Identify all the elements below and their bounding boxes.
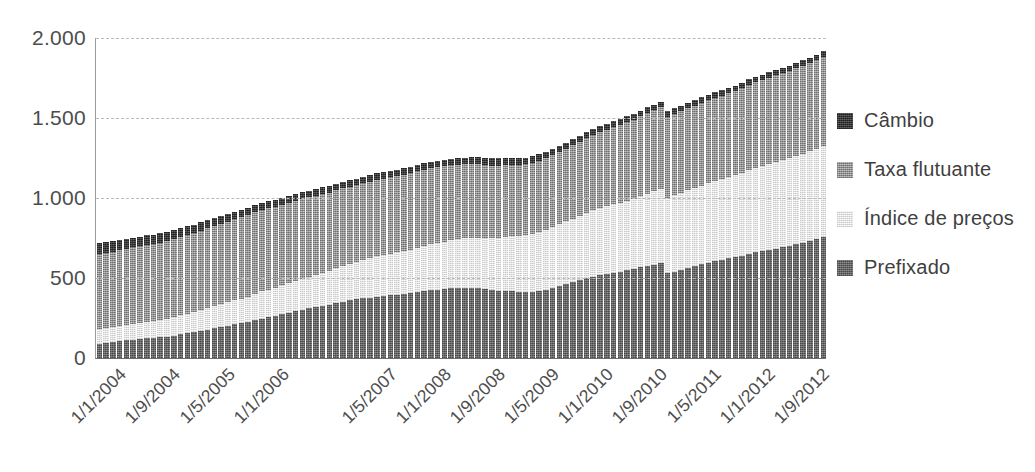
legend-item[interactable]: Índice de preços <box>837 194 1032 243</box>
bar-segment <box>408 293 414 358</box>
bar-segment <box>530 292 536 358</box>
bar-segment <box>516 236 522 292</box>
bar-segment <box>503 291 509 358</box>
bar-segment <box>388 295 394 358</box>
bar-segment <box>245 208 251 215</box>
bar-segment <box>638 267 644 358</box>
legend-item[interactable]: Prefixado <box>837 243 1032 292</box>
bar-segment <box>110 327 116 342</box>
bar-segment <box>482 165 488 238</box>
bar-segment <box>631 269 637 358</box>
bar-segment <box>658 107 664 189</box>
bar-segment <box>753 252 759 358</box>
bar-segment <box>191 225 197 233</box>
bar-segment <box>678 111 684 193</box>
bar-segment <box>550 155 556 227</box>
bar-segment <box>631 199 637 269</box>
bar-segment <box>455 288 461 358</box>
bar-segment <box>286 203 292 283</box>
bar-segment <box>97 344 103 358</box>
bar-segment <box>239 217 245 298</box>
x-axis-tick-label: 1/9/2010 <box>608 364 672 428</box>
bar-segment <box>171 317 177 335</box>
x-axis-tick-label: 1/1/2010 <box>554 364 618 428</box>
y-axis: 05001.0001.5002.000 <box>0 0 86 472</box>
bar-segment <box>618 272 624 358</box>
bar-segment <box>245 297 251 322</box>
bar-segment <box>273 207 279 288</box>
bar-segment <box>171 336 177 358</box>
bar-segment <box>347 180 353 187</box>
bar-segment <box>706 263 712 358</box>
bar-segment <box>185 235 191 314</box>
bar-segment <box>205 220 211 228</box>
legend-item[interactable]: Taxa flutuante <box>837 145 1032 194</box>
bar-segment <box>360 260 366 298</box>
bar-segment <box>300 310 306 358</box>
legend-swatch-icon <box>837 113 853 129</box>
bar-segment <box>516 292 522 358</box>
bar-segment <box>218 216 224 224</box>
bar-segment <box>212 226 218 306</box>
bar-segment <box>191 312 197 332</box>
bar-segment <box>706 100 712 183</box>
bar-segment <box>448 240 454 288</box>
bar-segment <box>496 158 502 165</box>
bar-segment <box>185 226 191 235</box>
bar-segment <box>760 166 766 251</box>
bar-segment <box>665 117 671 198</box>
bar-segment <box>178 334 184 358</box>
bar-segment <box>584 278 590 358</box>
bar-segment <box>814 239 820 358</box>
bar-segment <box>354 185 360 262</box>
bar-segment <box>482 289 488 358</box>
bar-segment <box>245 215 251 297</box>
bar-segment <box>611 273 617 358</box>
bar-segment <box>604 206 610 274</box>
bar-segment <box>306 197 312 276</box>
bar-segment <box>563 149 569 222</box>
bar-segment <box>178 237 184 315</box>
bar-segment <box>198 231 204 310</box>
bar-segment <box>164 337 170 358</box>
bar-segment <box>293 311 299 358</box>
bar-segment <box>793 244 799 358</box>
bar-segment <box>340 266 346 302</box>
bar-segment <box>787 158 793 246</box>
bar-segment <box>313 307 319 358</box>
bar-segment <box>381 296 387 358</box>
bar-segment <box>252 212 258 294</box>
bar-segment <box>793 68 799 156</box>
bar-segment <box>191 233 197 312</box>
chart-legend: CâmbioTaxa flutuanteÍndice de preçosPref… <box>837 96 1032 292</box>
bar-segment <box>157 243 163 320</box>
bar-segment <box>212 218 218 226</box>
legend-label: Câmbio <box>864 109 934 132</box>
bar-segment <box>198 222 204 230</box>
bar-segment <box>618 125 624 203</box>
legend-item[interactable]: Câmbio <box>837 96 1032 145</box>
bar-segment <box>793 156 799 244</box>
bar-segment <box>367 298 373 358</box>
bar-segment <box>503 158 509 165</box>
stacked-bar-chart: 05001.0001.5002.000 1/1/20041/9/20041/5/… <box>0 0 1035 472</box>
bar-segment <box>333 190 339 268</box>
bar-segment <box>712 181 718 261</box>
bar-segment <box>381 179 387 255</box>
bar-segment <box>232 212 238 220</box>
bar-segment <box>151 338 157 358</box>
bar-segment <box>590 277 596 358</box>
bar-segment <box>475 164 481 237</box>
bar-segment <box>435 243 441 290</box>
bar-segment <box>286 283 292 313</box>
bar-segment <box>408 250 414 294</box>
bar-segment <box>475 288 481 358</box>
bar-segment <box>678 270 684 358</box>
bar-segment <box>151 235 157 244</box>
x-axis-tick-label: 1/9/2012 <box>770 364 834 428</box>
bar-segment <box>733 175 739 257</box>
bar-segment <box>212 328 218 358</box>
gridline <box>96 278 826 279</box>
bar-segment <box>394 176 400 252</box>
bar-segment <box>760 80 766 166</box>
